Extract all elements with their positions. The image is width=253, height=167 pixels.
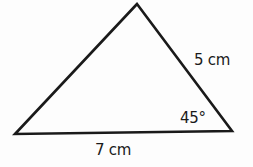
right-side-length-label: 5 cm (194, 53, 230, 68)
triangle-diagram: 5 cm 45° 7 cm (0, 0, 253, 167)
base-length-label: 7 cm (95, 143, 131, 158)
angle-label: 45° (180, 111, 206, 126)
